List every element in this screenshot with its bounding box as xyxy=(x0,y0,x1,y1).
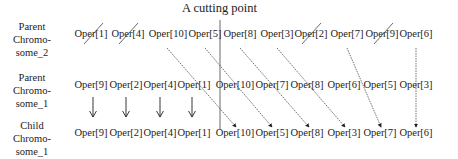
strike-oper9 xyxy=(374,23,393,44)
strike-oper1 xyxy=(84,23,103,44)
strike-oper2 xyxy=(302,23,321,44)
strike-oper4 xyxy=(119,23,138,44)
connector-lines xyxy=(0,0,458,159)
crossover-diagram: A cutting point Parent Chromo- some_2 Pa… xyxy=(0,0,458,159)
